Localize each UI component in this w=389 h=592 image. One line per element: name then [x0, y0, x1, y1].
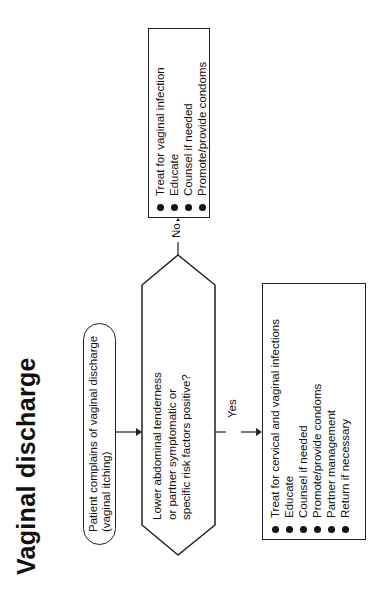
start-node-line1: Patient complains of vaginal discharge: [87, 334, 100, 532]
decision-line1: Lower abdominal tenderness: [150, 280, 165, 520]
list-item: Counsel if needed: [296, 290, 310, 533]
bullet-icon: [272, 526, 279, 533]
list-item: Promote/provide condoms: [310, 290, 324, 533]
bullet-icon: [185, 204, 192, 211]
list-item: Educate: [282, 290, 296, 533]
decision-line2: or partner symptomatic or: [165, 280, 180, 520]
start-node: Patient complains of vaginal discharge (…: [83, 323, 116, 545]
list-item: Counsel if needed: [181, 35, 195, 211]
list-item: Treat for cervical and vaginal infection…: [268, 290, 282, 533]
page-title: Vaginal discharge: [12, 357, 41, 575]
bullet-icon: [314, 526, 321, 533]
list-item: Promote/provide condoms: [195, 35, 209, 211]
bullet-icon: [199, 204, 206, 211]
list-item: Return if necessary: [338, 290, 352, 533]
bullet-icon: [300, 526, 307, 533]
list-item: Partner management: [324, 290, 338, 533]
no-outcome-box: Treat for vaginal infection Educate Coun…: [148, 28, 210, 218]
bullet-icon: [157, 204, 164, 211]
bullet-icon: [286, 526, 293, 533]
list-item: Treat for vaginal infection: [153, 35, 167, 211]
bullet-icon: [328, 526, 335, 533]
flowchart-canvas: Vaginal discharge Patient complains of v…: [0, 0, 389, 592]
no-branch-label: No: [170, 221, 182, 240]
yes-branch-label: Yes: [226, 397, 238, 420]
decision-node: Lower abdominal tenderness or partner sy…: [150, 280, 194, 520]
arrowhead-icon: [136, 428, 142, 436]
bullet-icon: [171, 204, 178, 211]
start-node-line2: (vaginal itching): [100, 334, 113, 532]
faint-footnote-bleedthrough: · · · · · · · · · · · · · · · · · · · · …: [372, 24, 379, 584]
yes-outcome-box: Treat for cervical and vaginal infection…: [262, 283, 366, 540]
bullet-icon: [342, 526, 349, 533]
decision-line3: specific risk factors positive?: [179, 280, 194, 520]
list-item: Educate: [167, 35, 181, 211]
